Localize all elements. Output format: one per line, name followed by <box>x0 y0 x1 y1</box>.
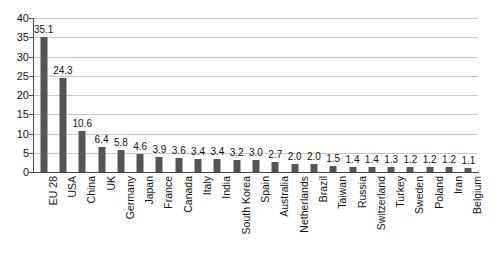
bar-slot: 2.0 <box>285 18 304 172</box>
bar[interactable] <box>465 168 472 172</box>
y-axis-tick-label-wrap: 40 <box>0 13 29 24</box>
y-axis-tick-label: 35 <box>1 32 29 43</box>
bar-slot: 1.3 <box>381 18 400 172</box>
category-slot: Canada <box>169 173 188 258</box>
y-axis-tick <box>29 114 33 115</box>
bar[interactable] <box>156 157 163 172</box>
y-axis-tick-label: 20 <box>1 90 29 101</box>
bar-slot: 1.4 <box>343 18 362 172</box>
bar-value-label: 3.0 <box>249 148 263 158</box>
bar-slot: 35.1 <box>34 18 53 172</box>
bar-value-label: 4.6 <box>133 142 147 152</box>
y-axis-tick-label-wrap: 30 <box>0 52 29 63</box>
bar[interactable] <box>175 158 182 172</box>
bar-slot: 24.3 <box>53 18 72 172</box>
bar-value-label: 10.6 <box>73 119 92 129</box>
bar-value-label: 2.0 <box>288 152 302 162</box>
bar-value-label: 5.8 <box>114 138 128 148</box>
category-slot: China <box>73 173 92 258</box>
category-slot: Italy <box>188 173 207 258</box>
y-axis-tick-label-wrap: 10 <box>0 129 29 140</box>
bar-slot: 6.4 <box>92 18 111 172</box>
y-axis-tick <box>29 95 33 96</box>
category-slot: Australia <box>266 173 285 258</box>
y-axis-tick-label: 10 <box>1 129 29 140</box>
y-axis-tick <box>29 134 33 135</box>
bar[interactable] <box>291 164 298 172</box>
bar[interactable] <box>388 167 395 172</box>
bar[interactable] <box>330 166 337 172</box>
y-axis-tick <box>29 18 33 19</box>
y-axis-tick-label-wrap: 20 <box>0 90 29 101</box>
bar-slot: 3.4 <box>188 18 207 172</box>
bar[interactable] <box>214 159 221 172</box>
bar[interactable] <box>272 162 279 172</box>
bar-value-label: 6.4 <box>95 135 109 145</box>
bar[interactable] <box>426 167 433 172</box>
category-slot: Poland <box>420 173 439 258</box>
category-slot: Japan <box>131 173 150 258</box>
bar-chart: 4035302520151050 35.124.310.66.45.84.63.… <box>0 0 501 258</box>
bar[interactable] <box>349 167 356 172</box>
bar[interactable] <box>252 160 259 172</box>
bar[interactable] <box>40 37 47 172</box>
category-slot: Turkey <box>381 173 400 258</box>
category-slot: Spain <box>246 173 265 258</box>
bar[interactable] <box>407 167 414 172</box>
bar-slot: 3.9 <box>150 18 169 172</box>
bar[interactable] <box>137 154 144 172</box>
bar-slot: 4.6 <box>131 18 150 172</box>
bar-slot: 3.0 <box>246 18 265 172</box>
category-slot: EU 28 <box>34 173 53 258</box>
bar[interactable] <box>195 159 202 172</box>
bar-value-label: 3.9 <box>153 145 167 155</box>
category-slot: UK <box>92 173 111 258</box>
bar-slot: 2.7 <box>266 18 285 172</box>
category-labels: EU 28USAChinaUKGermanyJapanFranceCanadaI… <box>34 173 478 258</box>
bar-value-label: 1.2 <box>442 155 456 165</box>
bar-value-label: 1.2 <box>403 155 417 165</box>
bar-value-label: 1.4 <box>365 155 379 165</box>
bar[interactable] <box>117 150 124 172</box>
bar[interactable] <box>59 78 66 172</box>
bar[interactable] <box>310 164 317 172</box>
bar[interactable] <box>79 131 86 172</box>
bar-slot: 1.2 <box>401 18 420 172</box>
bar-slot: 2.0 <box>304 18 323 172</box>
category-slot: South Korea <box>227 173 246 258</box>
bar-slot: 1.5 <box>324 18 343 172</box>
y-axis-tick-label: 25 <box>1 71 29 82</box>
bar-value-label: 3.6 <box>172 146 186 156</box>
bar-slot: 3.6 <box>169 18 188 172</box>
bar-value-label: 1.2 <box>423 155 437 165</box>
category-slot: Germany <box>111 173 130 258</box>
bar-slot: 1.1 <box>459 18 478 172</box>
x-axis-category-label: Belgium <box>472 176 483 214</box>
bar[interactable] <box>233 160 240 172</box>
bar[interactable] <box>98 147 105 172</box>
category-slot: Taiwan <box>324 173 343 258</box>
y-axis-tick-label-wrap: 35 <box>0 32 29 43</box>
bar-value-label: 35.1 <box>34 25 53 35</box>
y-axis-tick <box>29 37 33 38</box>
category-slot: Sweden <box>401 173 420 258</box>
bar-value-label: 1.5 <box>326 154 340 164</box>
bar-value-label: 1.1 <box>461 156 475 166</box>
bar-slot: 5.8 <box>111 18 130 172</box>
bar-slot: 1.2 <box>420 18 439 172</box>
category-slot: France <box>150 173 169 258</box>
bar[interactable] <box>446 167 453 172</box>
bar-slot: 3.2 <box>227 18 246 172</box>
y-axis-tick-label-wrap: 5 <box>0 148 29 159</box>
bar-value-label: 3.4 <box>191 147 205 157</box>
category-slot: Russia <box>343 173 362 258</box>
bar[interactable] <box>368 167 375 172</box>
y-axis-tick-label: 30 <box>1 52 29 63</box>
y-axis-tick-label-wrap: 15 <box>0 109 29 120</box>
y-axis-tick <box>29 172 33 173</box>
bar-value-label: 2.0 <box>307 152 321 162</box>
bar-slot: 10.6 <box>73 18 92 172</box>
category-slot: USA <box>53 173 72 258</box>
category-slot: Belgium <box>459 173 478 258</box>
bar-value-label: 1.4 <box>346 155 360 165</box>
